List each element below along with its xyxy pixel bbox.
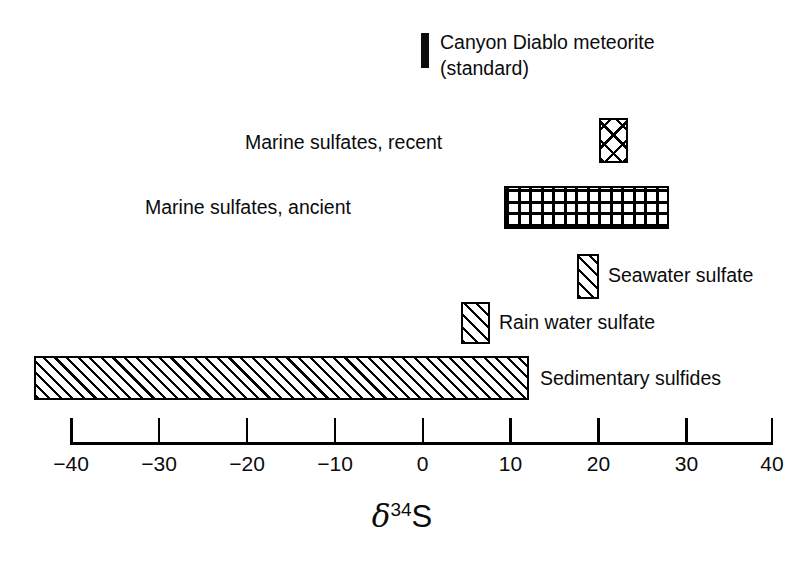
axis-tick--20	[246, 418, 249, 442]
axis-title: δ34S	[0, 498, 804, 535]
axis-tick--10	[334, 418, 337, 442]
axis-title-element: S	[412, 499, 433, 534]
axis-tick-10	[509, 418, 512, 442]
axis-ticklabel-0: 0	[417, 452, 429, 476]
axis-tick--40	[70, 418, 73, 442]
axis-ticklabel--10: −10	[317, 452, 353, 476]
axis-tick--30	[158, 418, 161, 442]
axis-tick-30	[685, 418, 688, 442]
axis-ticklabel-40: 40	[760, 452, 783, 476]
axis-title-mass-number: 34	[390, 499, 411, 520]
axis-ticklabel-20: 20	[587, 452, 610, 476]
axis-title-delta: δ	[372, 498, 391, 534]
axis-tick-40	[771, 418, 774, 442]
isotope-range-chart: Canyon Diablo meteorite (standard) Marin…	[0, 0, 804, 579]
axis-tick-0	[422, 418, 425, 442]
axis-ticklabel-10: 10	[499, 452, 522, 476]
x-axis: −40 −30 −20 −10 0 10 20 30 40	[0, 0, 804, 579]
axis-ticklabel--30: −30	[141, 452, 177, 476]
axis-baseline	[70, 442, 773, 445]
axis-ticklabel--40: −40	[53, 452, 89, 476]
axis-tick-20	[597, 418, 600, 442]
axis-ticklabel--20: −20	[229, 452, 265, 476]
axis-ticklabel-30: 30	[675, 452, 698, 476]
